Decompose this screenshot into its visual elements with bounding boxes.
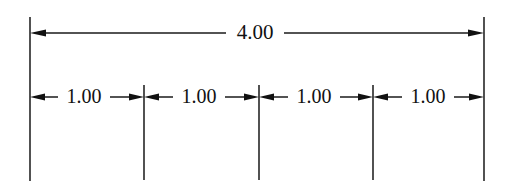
dimension-diagram-canvas: 4.00 1.00 1.00 1.00	[0, 0, 527, 191]
arrow-right-icon-sub-3	[358, 94, 373, 101]
arrow-left-icon-sub-4	[373, 94, 388, 101]
dimension-diagram: 4.00 1.00 1.00 1.00	[0, 0, 527, 191]
arrow-right-icon-sub-1	[129, 94, 144, 101]
sub-dimension-group-3: 1.00	[259, 85, 373, 107]
arrow-right-icon-overall	[468, 29, 484, 36]
sub-dimension-group-2: 1.00	[144, 85, 259, 107]
sub-dimension-label-1: 1.00	[67, 85, 102, 107]
arrow-left-icon-sub-3	[259, 94, 274, 101]
overall-dimension-group: 4.00	[30, 20, 484, 44]
arrow-left-icon-sub-1	[30, 94, 45, 101]
sub-dimension-group-1: 1.00	[30, 85, 144, 107]
arrow-left-icon-sub-2	[144, 94, 159, 101]
arrow-right-icon-sub-2	[244, 94, 259, 101]
arrow-left-icon-overall	[30, 29, 46, 36]
arrow-right-icon-sub-4	[469, 94, 484, 101]
sub-dimension-label-4: 1.00	[411, 85, 446, 107]
sub-dimension-group-4: 1.00	[373, 85, 484, 107]
overall-dimension-label: 4.00	[237, 20, 274, 44]
sub-dimension-label-2: 1.00	[182, 85, 217, 107]
sub-dimension-label-3: 1.00	[297, 85, 332, 107]
